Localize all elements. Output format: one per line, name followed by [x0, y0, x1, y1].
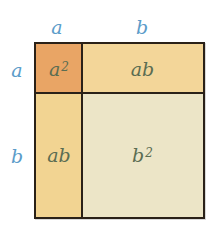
- cell-a-squared-exponent: 2: [61, 60, 69, 74]
- cell-b-squared-exponent: 2: [145, 146, 153, 160]
- cell-b-squared-base: b: [132, 144, 144, 166]
- horizontal-divider: [36, 92, 203, 94]
- cell-ab-top-text: ab: [131, 58, 155, 80]
- cell-b-squared: b2: [82, 93, 203, 217]
- cell-ab-left: ab: [36, 93, 82, 217]
- area-square: a2 ab ab b2: [34, 42, 205, 219]
- left-label-a: a: [11, 61, 22, 80]
- left-label-b: b: [11, 147, 23, 166]
- cell-a-squared-base: a: [49, 58, 60, 80]
- cell-a-squared: a2: [36, 44, 82, 93]
- top-label-a: a: [51, 18, 62, 37]
- top-label-b: b: [136, 18, 148, 37]
- cell-ab-top: ab: [82, 44, 203, 93]
- cell-ab-left-text: ab: [47, 144, 71, 166]
- vertical-divider: [81, 44, 83, 217]
